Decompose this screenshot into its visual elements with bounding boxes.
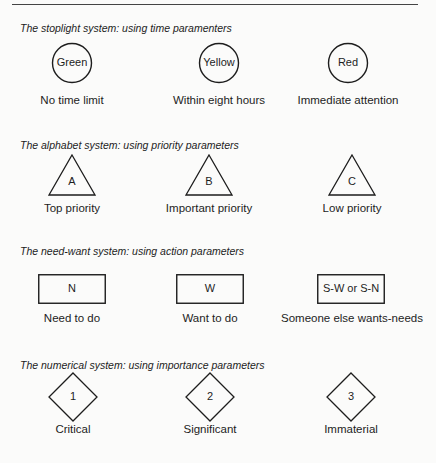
shape-symbol: Yellow [198,56,240,68]
alphabet-section-title: The alphabet system: using priority para… [20,139,239,151]
shape-caption: No time limit [2,94,142,106]
shape-symbol: N [38,282,106,294]
immaterial-item: 3 Immaterial [281,372,421,422]
shape-caption: Top priority [2,202,142,214]
diamond-shape-icon: 1 [48,372,98,422]
shape-symbol: A [48,175,96,187]
shape-caption: Immediate attention [278,94,418,106]
shape-caption: Want to do [140,312,280,324]
shape-caption: Immaterial [281,423,421,435]
shape-symbol: Red [327,56,369,68]
need-want-section-title: The need-want system: using action param… [20,245,244,257]
critical-item: 1 Critical [3,372,143,422]
shape-symbol: Green [51,56,93,68]
need-item: N Need to do [2,274,142,304]
shape-symbol: B [185,175,233,187]
shape-symbol: C [328,175,376,187]
stoplight-red-item: Red Immediate attention [278,42,418,84]
rectangle-shape-icon: W [176,274,244,304]
alphabet-c-item: C Low priority [282,154,422,196]
significant-item: 2 Significant [140,372,280,422]
circle-shape-icon: Yellow [198,42,240,84]
triangle-shape-icon: A [48,154,96,196]
stoplight-yellow-item: Yellow Within eight hours [149,42,289,84]
diamond-shape-icon: 3 [326,372,376,422]
alphabet-a-item: A Top priority [2,154,142,196]
top-rule [12,4,418,5]
alphabet-b-item: B Important priority [139,154,279,196]
shape-caption: Need to do [2,312,142,324]
rectangle-shape-icon: N [38,274,106,304]
want-item: W Want to do [140,274,280,304]
shape-caption: Someone else wants-needs [281,312,421,324]
shape-symbol: S-W or S-N [317,282,385,294]
circle-shape-icon: Green [51,42,93,84]
shape-caption: Significant [140,423,280,435]
stoplight-section-title: The stoplight system: using time paramen… [20,22,232,34]
triangle-shape-icon: C [328,154,376,196]
shape-caption: Critical [3,423,143,435]
shape-symbol: 2 [185,390,235,402]
shape-caption: Low priority [282,202,422,214]
shape-symbol: W [176,282,244,294]
numerical-section-title: The numerical system: using importance p… [20,359,265,371]
shape-caption: Important priority [139,202,279,214]
someone-else-item: S-W or S-N Someone else wants-needs [281,274,421,304]
shape-symbol: 1 [48,390,98,402]
triangle-shape-icon: B [185,154,233,196]
shape-caption: Within eight hours [149,94,289,106]
rectangle-shape-icon: S-W or S-N [317,274,385,304]
stoplight-green-item: Green No time limit [2,42,142,84]
diamond-shape-icon: 2 [185,372,235,422]
circle-shape-icon: Red [327,42,369,84]
shape-symbol: 3 [326,390,376,402]
